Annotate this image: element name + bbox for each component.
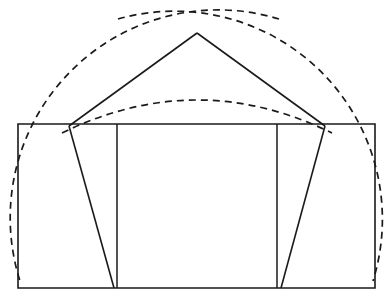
geometry-canvas (0, 0, 392, 304)
geometry-figure (0, 0, 392, 304)
canvas-background (0, 0, 392, 304)
